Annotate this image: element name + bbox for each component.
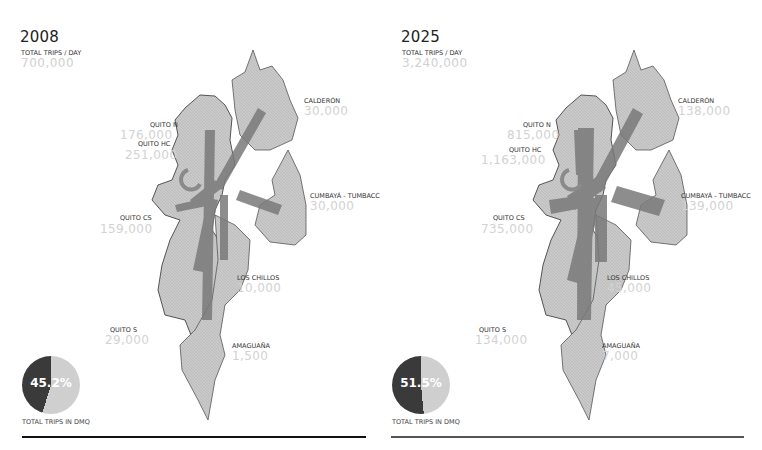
zone-annotations-2008-north: QUITO N 176,000 [0,0,381,450]
zone-value-quito-hc: 1,163,000 [481,153,546,167]
total-trips-value: 3,240,000 [402,56,468,70]
zone-value-quito-n: 176,000 [120,128,172,142]
zone-value-quito-cs: 735,000 [481,222,533,236]
zone-label-quito-cs: QUITO CS [493,214,525,222]
zone-value-quito-s: 134,000 [475,333,527,347]
pie-caption: TOTAL TRIPS IN DMQ [392,418,460,426]
divider-rule [391,436,744,438]
year-title: 2025 [401,28,440,46]
zone-value-quito-n: 815,000 [507,128,559,142]
zone-value-cumbaya: 139,000 [681,199,733,213]
zone-value-los-chillos: 45,000 [607,281,651,295]
zone-value-calderon: 138,000 [678,104,730,118]
zone-value-amaguana: 7,000 [602,349,638,363]
panel-2025: 2025 TOTAL TRIPS / DAY 3,240,000 QUITO N… [381,0,762,450]
share-percent: 51.5% [392,376,450,390]
share-pie-chart: 51.5% [392,356,450,414]
